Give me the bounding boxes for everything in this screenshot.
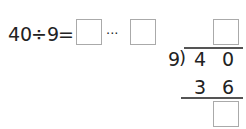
remainder-ellipsis: ··· — [106, 24, 118, 44]
dividend-digit-tens: 4 — [194, 49, 206, 69]
long-division-remainder-box[interactable] — [213, 101, 239, 127]
dividend: 40 — [8, 24, 32, 44]
quotient-answer-box[interactable] — [76, 19, 102, 45]
division-bracket: ) — [179, 48, 186, 68]
remainder-answer-box[interactable] — [130, 19, 156, 45]
product-digit-ones: 6 — [222, 77, 234, 97]
subtraction-line — [181, 97, 243, 99]
long-division-quotient-box[interactable] — [213, 19, 239, 45]
division-bar — [184, 47, 243, 49]
equals-sign: = — [58, 24, 74, 44]
dividend-digit-ones: 0 — [222, 49, 234, 69]
product-digit-tens: 3 — [194, 77, 206, 97]
divide-sign: ÷ — [31, 24, 47, 44]
